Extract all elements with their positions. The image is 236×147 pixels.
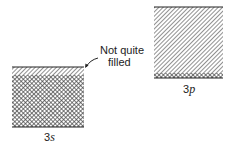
band-diagram: 3s 3p Not quite filled <box>0 0 236 147</box>
band-3s-filled-region <box>12 75 84 127</box>
band-3s: 3s <box>12 67 84 144</box>
band-3s-empty-region <box>12 67 84 75</box>
annotation-not-quite-filled: Not quite filled <box>85 44 144 68</box>
band-3p: 3p <box>154 7 223 96</box>
band-3s-label: 3s <box>44 130 55 144</box>
band-3p-filled-region <box>154 73 223 78</box>
annotation-line-2: filled <box>108 56 131 68</box>
annotation-line-1: Not quite <box>100 44 144 56</box>
band-3p-empty-region <box>154 7 223 73</box>
band-3p-label: 3p <box>183 82 195 96</box>
